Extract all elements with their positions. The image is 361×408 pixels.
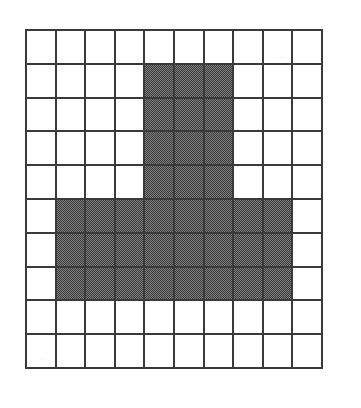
grid-cell-empty [264,166,292,198]
grid-cell-shaded [175,268,203,300]
grid-cell-empty [27,335,55,367]
grid-cell-empty [116,31,144,63]
grid-cell-empty [205,335,233,367]
grid-cell-empty [86,31,114,63]
grid-cell-shaded [234,234,262,266]
grid-cell-shaded [234,268,262,300]
grid-cell-empty [293,301,321,333]
grid-cell-shaded [86,200,114,232]
grid-cell-empty [27,31,55,63]
grid-cell-shaded [86,234,114,266]
grid-cell-empty [205,301,233,333]
grid-cell-shaded [145,132,173,164]
grid-cell-empty [27,268,55,300]
grid-cell-empty [145,301,173,333]
grid-cell-shaded [175,132,203,164]
grid-cell-empty [86,166,114,198]
shaded-grid [25,29,323,369]
grid-cell-shaded [145,65,173,97]
grid-cell-empty [57,335,85,367]
grid-cell-empty [234,132,262,164]
grid-cell-empty [116,65,144,97]
grid-cell-shaded [175,234,203,266]
grid-cell-empty [86,301,114,333]
grid-cell-shaded [264,200,292,232]
grid-cell-empty [57,31,85,63]
grid-cell-empty [234,166,262,198]
grid-cell-empty [264,65,292,97]
grid-cell-shaded [57,200,85,232]
grid-cell-empty [234,99,262,131]
grid-cell-empty [145,31,173,63]
grid-cell-shaded [116,268,144,300]
grid-cell-empty [205,31,233,63]
grid-cell-empty [27,166,55,198]
grid-cell-empty [293,335,321,367]
grid-cell-empty [234,335,262,367]
grid-cell-empty [293,234,321,266]
grid-cell-shaded [205,166,233,198]
grid-cell-empty [86,65,114,97]
grid-cell-empty [116,132,144,164]
grid-cell-empty [175,301,203,333]
grid-cell-shaded [145,99,173,131]
grid-cell-shaded [116,234,144,266]
grid-cell-empty [234,31,262,63]
grid-cell-empty [175,335,203,367]
grid-cell-empty [116,301,144,333]
grid-cell-empty [264,132,292,164]
grid-cell-empty [264,301,292,333]
grid-cell-empty [57,301,85,333]
grid-cell-empty [264,99,292,131]
grid-cell-empty [116,335,144,367]
grid-cell-shaded [264,234,292,266]
grid-cell-shaded [205,234,233,266]
grid-cell-shaded [175,200,203,232]
grid-cell-shaded [205,200,233,232]
grid-cell-empty [293,132,321,164]
grid-cell-empty [116,166,144,198]
grid-cell-empty [27,99,55,131]
grid-cell-shaded [145,234,173,266]
grid-cell-empty [27,132,55,164]
grid-cell-empty [27,234,55,266]
grid-cell-shaded [175,65,203,97]
grid-cell-shaded [234,200,262,232]
grid-cell-empty [293,31,321,63]
grid-cell-empty [293,268,321,300]
grid-cell-shaded [205,65,233,97]
grid-cell-empty [57,132,85,164]
grid-cell-shaded [145,200,173,232]
grid-cell-empty [145,335,173,367]
grid-cell-empty [27,200,55,232]
grid-cell-empty [293,200,321,232]
grid-cell-shaded [145,166,173,198]
grid-cell-empty [234,65,262,97]
grid-cell-empty [264,31,292,63]
grid-cell-shaded [175,99,203,131]
grid-cell-empty [234,301,262,333]
grid-cell-shaded [205,268,233,300]
grid-cell-shaded [116,200,144,232]
grid-cell-empty [293,99,321,131]
grid-cell-empty [57,166,85,198]
figure-root: Shaded grid figure A 10 by 10 square gri… [0,0,361,408]
grid-cell-empty [116,99,144,131]
grid-cell-empty [293,166,321,198]
grid-cell-shaded [57,234,85,266]
grid-cell-empty [27,65,55,97]
grid-cell-empty [293,65,321,97]
grid-cell-empty [57,65,85,97]
grid-cell-shaded [175,166,203,198]
grid-cell-empty [86,99,114,131]
grid-cell-empty [264,335,292,367]
grid-cell-empty [86,335,114,367]
grid-cell-shaded [86,268,114,300]
grid-cell-empty [57,99,85,131]
grid-cell-shaded [205,132,233,164]
grid-cell-shaded [57,268,85,300]
grid-cell-shaded [264,268,292,300]
grid-cell-shaded [145,268,173,300]
grid-cell-empty [27,301,55,333]
grid-cell-shaded [205,99,233,131]
